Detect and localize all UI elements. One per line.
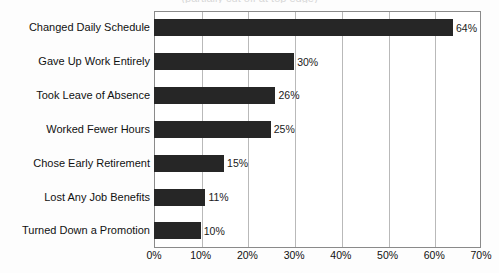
category-label: Lost Any Job Benefits [44,192,150,203]
bar-chart: (partially cut off at top edge) Changed … [0,0,499,273]
category-label: Worked Fewer Hours [46,124,150,135]
bar-row: 11% [154,180,481,214]
x-tick-label: 50% [377,250,398,261]
category-label-row: Changed Daily Schedule [0,11,150,45]
bar-series: 64%30%26%25%15%11%10% [154,11,481,248]
bar-value-label: 30% [297,57,318,68]
category-label: Changed Daily Schedule [29,22,150,33]
bar-value-label: 26% [278,90,299,101]
bar [154,53,294,70]
x-tick-label: 40% [330,250,351,261]
x-tick-label: 20% [237,250,258,261]
category-label-row: Gave Up Work Entirely [0,45,150,79]
bar-row: 64% [154,11,481,45]
bar-row: 30% [154,45,481,79]
bar [154,189,205,206]
bar-row: 25% [154,113,481,147]
category-label-row: Worked Fewer Hours [0,113,150,147]
bar [154,19,453,36]
category-label: Gave Up Work Entirely [38,56,150,67]
bar [154,121,271,138]
category-label-row: Chose Early Retirement [0,146,150,180]
bar-value-label: 10% [204,226,225,237]
bar [154,222,201,239]
category-label: Turned Down a Promotion [22,225,150,236]
x-tick-label: 70% [470,250,491,261]
bar-row: 26% [154,79,481,113]
x-tick-label: 0% [146,250,161,261]
category-label: Chose Early Retirement [33,158,150,169]
chart-title: (partially cut off at top edge) [0,0,499,3]
bar-value-label: 11% [208,192,228,203]
bar-row: 10% [154,214,481,248]
x-tick-label: 10% [190,250,211,261]
x-tick-label: 30% [284,250,305,261]
bar-row: 15% [154,146,481,180]
category-label-row: Took Leave of Absence [0,79,150,113]
bar [154,87,275,104]
category-label-row: Lost Any Job Benefits [0,180,150,214]
category-axis-labels: Changed Daily ScheduleGave Up Work Entir… [0,11,150,248]
bar-value-label: 64% [456,23,477,34]
bar [154,155,224,172]
category-label-row: Turned Down a Promotion [0,214,150,248]
bar-value-label: 15% [227,158,248,169]
x-axis-tick-labels: 0%10%20%30%40%50%60%70% [154,250,481,266]
category-label: Took Leave of Absence [36,90,150,101]
x-tick-label: 60% [424,250,445,261]
bar-value-label: 25% [274,124,295,135]
